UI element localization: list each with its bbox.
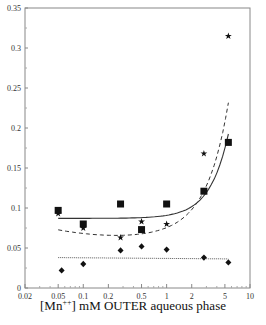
marker-diamond [118,247,124,253]
marker-diamond [80,261,86,267]
marker-diamond [139,243,145,249]
x-axis-label-prefix: [Mn [40,298,62,313]
x-axis-label: [Mn++] mM OUTER aqueous phase [0,298,266,314]
fit-line-stars [58,103,228,236]
y-tick-label: 0.2 [11,124,21,133]
marker-star [225,32,232,39]
marker-square [163,201,170,208]
marker-diamond [201,254,207,260]
marker-diamond [59,267,65,273]
chart-plot: 00.050.10.150.20.250.30.350.020.050.10.2… [0,0,266,325]
marker-star [201,150,208,157]
marker-square [138,226,145,233]
marker-square [117,201,124,208]
marker-star [163,220,170,227]
y-tick-label: 0.3 [11,44,21,53]
fit-line-squares [58,134,228,218]
y-tick-label: 0.25 [7,84,21,93]
y-tick-label: 0.05 [7,244,21,253]
y-tick-label: 0.35 [7,4,21,13]
plot-frame [25,8,250,288]
y-tick-label: 0.1 [11,204,21,213]
marker-diamond [164,246,170,252]
marker-star [138,218,145,225]
marker-diamond [225,259,231,265]
marker-square [225,139,232,146]
x-axis-label-suffix: ] mM OUTER aqueous phase [71,298,226,313]
marker-square [200,188,207,195]
y-tick-label: 0.15 [7,164,21,173]
